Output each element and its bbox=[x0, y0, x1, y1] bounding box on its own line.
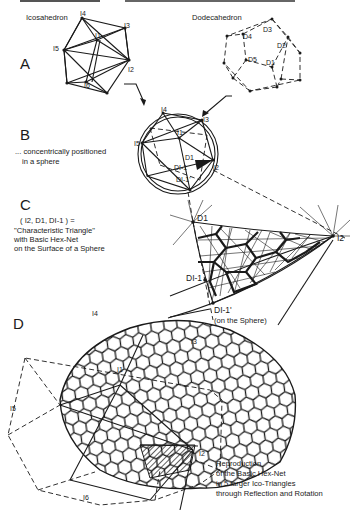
panel-d-caption-line2: of the Basic Hex-Net bbox=[216, 469, 287, 478]
vertex-label-i5: I5 bbox=[134, 140, 140, 147]
vertex-label-d2: D2 bbox=[277, 42, 286, 49]
projection-lines bbox=[188, 170, 345, 238]
vertex-label-d3: D3 bbox=[263, 26, 272, 33]
dodecahedron-title: Dodecahedron bbox=[192, 13, 242, 22]
panel-d-caption-line3: in 5 larger Ico-Triangles bbox=[216, 479, 296, 488]
on-the-sphere-note: (on the Sphere) bbox=[214, 316, 267, 325]
icosahedron-drawing: Icosahedron I4 I3 I1 I5 I bbox=[26, 10, 134, 95]
characteristic-triangle-drawing: D1 I2 DI-1 DI-1' (on the Sphere) bbox=[168, 200, 350, 325]
vertex-label-d1: D1 bbox=[197, 213, 208, 223]
panel-c-caption-line3: with Basic Hex-Net bbox=[13, 235, 79, 244]
vertex-label-i4: I4 bbox=[161, 106, 167, 113]
vertex-label-i3: I3 bbox=[124, 22, 130, 29]
vertex-label-d5: D5 bbox=[248, 56, 257, 63]
panel-letter-b: B bbox=[20, 126, 30, 143]
panel-d: D I4 I3 I1 I5 bbox=[8, 309, 323, 510]
vertex-label-di1: DI-1 bbox=[174, 164, 187, 171]
panel-letter-d: D bbox=[13, 315, 24, 332]
sphere-with-polyhedra: I4 I3 I1 I5 I2 D1 DI-1 DI-1' bbox=[134, 106, 219, 194]
vertex-label-di1p: DI-1' bbox=[176, 176, 191, 183]
vertex-label-i2: I2 bbox=[213, 164, 219, 171]
vertex-label-i6: I6 bbox=[83, 494, 89, 501]
vertex-label-i6: I6 bbox=[84, 82, 90, 89]
vertex-label-d1: D1 bbox=[266, 59, 275, 66]
panel-letter-a: A bbox=[20, 55, 30, 72]
vertex-label-i1: I1 bbox=[117, 366, 123, 373]
vertex-label-d1: D1 bbox=[185, 154, 194, 161]
vertex-label-i5: I5 bbox=[53, 45, 59, 52]
vertex-label-i4: I4 bbox=[80, 10, 86, 17]
panel-letter-c: C bbox=[20, 196, 31, 213]
panel-a: A Icosahedron I4 I3 bbox=[20, 10, 302, 117]
vertex-label-i1: I1 bbox=[95, 32, 101, 39]
vertex-label-di1p: DI-1' bbox=[214, 305, 232, 315]
panel-b-caption-line2: in a sphere bbox=[22, 157, 60, 166]
vertex-label-i2: I2 bbox=[128, 66, 134, 73]
panel-d-caption-line4: through Reflection and Rotation bbox=[216, 489, 323, 498]
vertex-label-i2: I2 bbox=[199, 450, 205, 457]
geodesic-diagram: A Icosahedron I4 I3 bbox=[0, 0, 351, 517]
panel-c-caption-line1: ( I2, D1, DI-1 ) = bbox=[20, 216, 75, 225]
arrow-dodecahedron-to-sphere bbox=[202, 96, 232, 117]
icosahedron-title: Icosahedron bbox=[26, 13, 68, 22]
vertex-label-i5: I5 bbox=[10, 405, 16, 412]
vertex-label-d4: D4 bbox=[243, 33, 252, 40]
top-caption-partial bbox=[20, 0, 295, 2]
vertex-label-i4: I4 bbox=[92, 310, 98, 317]
arrow-icosahedron-to-sphere bbox=[124, 84, 146, 106]
vertex-label-i3: I3 bbox=[191, 338, 197, 345]
vertex-label-di1: DI-1 bbox=[186, 273, 202, 283]
panel-b-caption-line1: ... concentrically positioned bbox=[15, 147, 106, 156]
panel-c-caption-line2: "Characteristic Triangle" bbox=[14, 226, 95, 235]
panel-c-caption-line4: on the Surface of a Sphere bbox=[14, 244, 105, 253]
vertex-label-i1: I1 bbox=[177, 129, 183, 136]
dodecahedron-drawing: Dodecahedron D3 D4 D2 bbox=[192, 13, 302, 93]
vertex-label-i2: I2 bbox=[337, 233, 344, 243]
panel-c: C ( I2, D1, DI-1 ) = "Characteristic Tri… bbox=[13, 196, 350, 325]
characteristic-triangle-fill bbox=[195, 160, 213, 170]
panel-d-caption-line1: Reproduction bbox=[216, 459, 261, 468]
vertex-label-i3: I3 bbox=[203, 116, 209, 123]
